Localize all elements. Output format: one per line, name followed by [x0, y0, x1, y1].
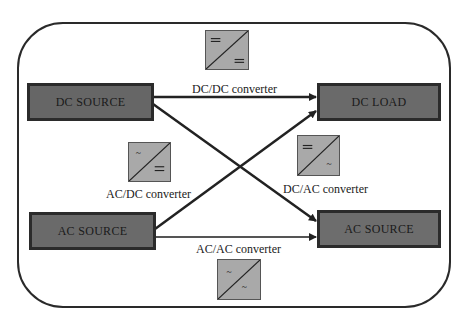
svg-text:~: ~	[327, 159, 332, 169]
converter-diagonal: ~	[129, 143, 170, 181]
arrow-dc-source-to-ac-source	[153, 104, 316, 221]
ac-ac-converter-icon: ~ ~	[217, 259, 261, 300]
svg-text:~: ~	[136, 148, 141, 158]
converter-diagonal	[206, 31, 248, 69]
arrow-ac-source-to-dc-load	[155, 111, 316, 229]
dc-ac-converter-label: DC/AC converter	[283, 182, 368, 197]
converter-diagonal: ~	[298, 136, 339, 175]
svg-text:~: ~	[242, 282, 247, 292]
dc-source-block: DC SOURCE	[27, 83, 154, 121]
ac-source-left-label: AC SOURCE	[58, 224, 128, 239]
ac-source-right-label: AC SOURCE	[344, 222, 414, 237]
dc-load-label: DC LOAD	[351, 95, 406, 110]
svg-text:~: ~	[227, 267, 232, 277]
dc-dc-converter-icon	[205, 30, 249, 70]
dc-load-block: DC LOAD	[317, 83, 441, 121]
ac-source-left-block: AC SOURCE	[29, 212, 156, 250]
ac-dc-converter-icon: ~	[128, 142, 171, 182]
dc-ac-converter-icon: ~	[297, 135, 340, 176]
dc-dc-converter-label: DC/DC converter	[192, 82, 277, 97]
ac-source-right-block: AC SOURCE	[317, 210, 441, 248]
ac-ac-converter-label: AC/AC converter	[196, 242, 281, 257]
ac-dc-converter-label: AC/DC converter	[106, 187, 191, 202]
converter-diagonal: ~ ~	[218, 260, 260, 299]
dc-source-label: DC SOURCE	[56, 95, 126, 110]
